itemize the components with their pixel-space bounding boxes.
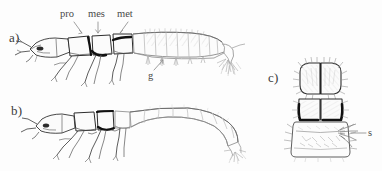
- annotation-met: met: [117, 8, 133, 19]
- panel-b-caudal-tuft: [224, 142, 246, 164]
- leader-pro-arrow: [79, 31, 82, 34]
- panel-b-mesothorax: [97, 111, 114, 130]
- leader-met-arrow: [120, 30, 123, 33]
- annotation-g: g: [148, 70, 153, 81]
- panel-label-c: c): [268, 70, 279, 86]
- panel-c-specimen: [284, 57, 358, 162]
- panel-label-b: b): [11, 103, 22, 119]
- panel-label-a: a): [9, 30, 20, 46]
- panel-a-prothorax: [68, 36, 91, 56]
- panel-b-metathorax: [115, 111, 130, 128]
- panel-c-head-lobes: [293, 57, 348, 100]
- panel-a-specimen: [15, 28, 245, 87]
- panel-c-abdomen-plate: [284, 122, 358, 162]
- panel-a-mesothorax: [92, 35, 112, 56]
- annotation-s: s: [368, 127, 372, 138]
- panel-b-prothorax: [74, 112, 96, 131]
- panel-a-head: [15, 38, 70, 62]
- annotation-pro: pro: [60, 8, 74, 19]
- panel-b-legs: [53, 128, 126, 163]
- scientific-figure: a) b) c) pro mes met g s: [0, 0, 382, 171]
- panel-a-metathorax: [113, 34, 133, 54]
- annotation-mes: mes: [88, 8, 105, 19]
- panel-b-head: [21, 114, 75, 139]
- panel-b-abdomen: [130, 104, 238, 146]
- panel-c-thorax-segments: [292, 99, 349, 120]
- panel-a-abdomen: [133, 28, 225, 66]
- panel-a-legs: [51, 54, 124, 87]
- panel-b-specimen: [21, 104, 246, 164]
- figure-artwork: [0, 0, 382, 171]
